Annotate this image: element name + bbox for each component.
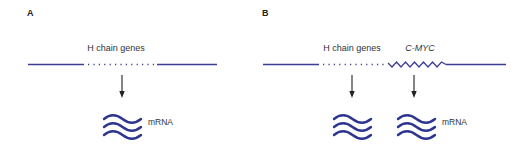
mrna-label-a: mRNA <box>148 117 173 127</box>
arrow-down-icon <box>119 91 124 98</box>
panel-a: A H chain genes mRNA <box>27 8 217 139</box>
panel-b: B H chain genes C-MYC mRNA <box>262 8 506 139</box>
arrow-down-icon <box>349 91 354 98</box>
mrna-strand <box>104 115 141 123</box>
transcription-arrow-c-myc <box>411 75 416 98</box>
mrna-waves-h-chain-b <box>334 115 371 139</box>
diagram-canvas: A H chain genes mRNA B H chain genes C-M… <box>0 0 525 150</box>
mrna-waves-a <box>104 115 141 139</box>
mrna-strand <box>398 123 435 131</box>
mrna-strand <box>398 131 435 139</box>
mrna-strand <box>104 123 141 131</box>
mrna-label-b: mRNA <box>442 117 467 127</box>
mrna-strand <box>334 131 371 139</box>
mrna-strand <box>104 131 141 139</box>
transcription-arrow-h-chain-b <box>349 75 354 98</box>
mrna-waves-c-myc <box>398 115 435 139</box>
arrow-down-icon <box>411 91 416 98</box>
panel-letter-a: A <box>27 8 34 18</box>
transcription-arrow-a <box>119 75 124 98</box>
gene-label-c-myc: C-MYC <box>405 43 435 53</box>
mrna-strand <box>334 115 371 123</box>
panel-letter-b: B <box>262 8 269 18</box>
mrna-strand <box>334 123 371 131</box>
dna-strand-b <box>263 62 506 67</box>
gene-label-h-chain-b: H chain genes <box>323 43 381 53</box>
gene-label-h-chain-a: H chain genes <box>87 43 145 53</box>
dna-zigzag-segment-c-myc <box>388 62 446 67</box>
mrna-strand <box>398 115 435 123</box>
